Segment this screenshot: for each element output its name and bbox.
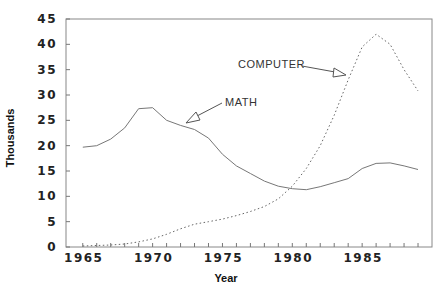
annotation-computer: COMPUTER: [238, 58, 305, 70]
line-chart: 05101520253035404519651970197519801985MA…: [0, 0, 442, 295]
plot-frame: [66, 19, 432, 247]
y-tick-label: 45: [37, 12, 57, 26]
y-tick-label: 5: [47, 215, 57, 229]
y-tick-label: 20: [37, 139, 57, 153]
y-tick-label: 15: [37, 164, 57, 178]
plot-area: 05101520253035404519651970197519801985MA…: [37, 12, 432, 265]
y-tick-label: 35: [37, 63, 57, 77]
x-tick-label: 1965: [64, 251, 103, 265]
x-tick-label: 1980: [274, 251, 313, 265]
annotation-math-arrow-line: [197, 103, 222, 116]
annotation-math-arrow-head: [186, 112, 200, 123]
y-tick-label: 40: [37, 37, 57, 51]
annotation-math: MATH: [225, 96, 257, 108]
annotation-computer-arrow-head: [333, 68, 346, 77]
y-tick-label: 10: [37, 189, 57, 203]
x-axis-title: Year: [214, 272, 238, 284]
y-axis-title: Thousands: [4, 109, 16, 168]
y-tick-label: 30: [37, 88, 57, 102]
y-tick-label: 25: [37, 113, 57, 127]
x-tick-label: 1975: [204, 251, 243, 265]
x-tick-label: 1985: [343, 251, 382, 265]
series-line-math: [83, 108, 418, 190]
x-tick-label: 1970: [134, 251, 173, 265]
y-tick-label: 0: [47, 240, 57, 254]
annotation-computer-arrow-line: [302, 66, 335, 72]
